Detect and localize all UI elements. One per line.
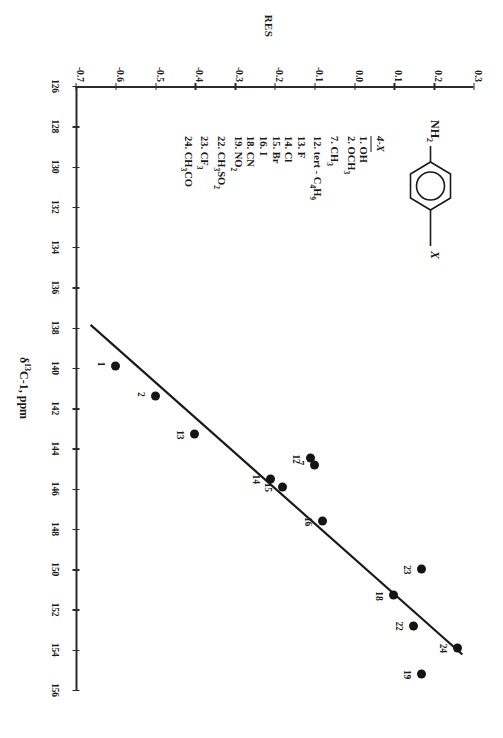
data-point-label: 2 [135,392,145,397]
legend-list: 1. OH2. OCH37. CH312. tert - C4H913. F14… [176,136,368,200]
legend-item-subscript: 3 [195,166,204,170]
legend-item-name: Br [270,152,281,164]
data-point-label: 7 [294,461,304,466]
legend-item-name: CH [328,147,339,163]
y-tick-label: 0.3 [472,56,482,82]
legend-item-name: CF [198,152,209,166]
legend-item-number: 7. [328,136,339,147]
benzene-structure-icon [397,120,463,270]
legend-item-subscript2: 9 [308,196,317,200]
x-axis-title-rest: C-1, ppm [16,371,30,419]
data-point [389,591,398,600]
legend-item-number: 1. [357,136,368,147]
legend-item-name: OH [357,147,368,163]
legend-item-subscript2: 2 [212,185,221,189]
data-point [417,669,426,678]
x-tick [72,690,79,691]
legend-item: 24. CH3CO [176,136,193,200]
nh2-subscript: 2 [425,138,434,142]
data-point [409,621,418,630]
legend-item-number: 15. [270,136,281,152]
data-point-label: 23 [401,565,411,574]
legend-item-number: 22. [215,136,226,152]
substituent-x-label: X [426,251,441,259]
data-point [277,482,286,491]
legend-item: 18. CN [243,136,256,200]
x-tick-label: 134 [49,240,59,254]
data-point-label: 19 [401,670,411,679]
legend-item-number: 2. [345,136,356,147]
legend-item-name: CH [215,152,226,168]
legend-item-name: CN [244,152,255,167]
y-tick-label: -0.7 [74,56,84,82]
data-point [190,430,199,439]
x-tick-label: 142 [49,401,59,415]
y-tick-label: -0.6 [114,56,124,82]
legend-item-number: 24. [182,136,193,152]
legend-item-name2: SO [215,171,226,185]
y-tick-label: 0.0 [353,56,363,82]
legend: 4-X 1. OH2. OCH37. CH312. tert - C4H913.… [176,136,385,200]
legend-item-number: 16. [257,136,268,152]
x-tick-label: 146 [49,482,59,496]
y-tick-label: -0.5 [154,56,164,82]
y-tick-label: -0.4 [193,56,203,82]
data-point [309,460,318,469]
data-point-label: 13 [174,430,184,439]
x-tick-label: 130 [49,160,59,174]
legend-item: 1. OH [356,136,369,200]
legend-item-subscript: 3 [325,162,334,166]
data-point-label: 18 [373,591,383,600]
legend-item-name2: CO [182,171,193,187]
data-point [150,392,159,401]
x-tick-label: 152 [49,603,59,617]
x-tick-label: 136 [49,281,59,295]
legend-item: 22. CH3SO2 [209,136,226,200]
x-tick-label: 148 [49,522,59,536]
legend-item: 23. CF3 [193,136,210,200]
x-tick-label: 132 [49,200,59,214]
data-point-label: 1 [95,362,105,367]
legend-item-name: tert - C [311,152,322,185]
legend-item-number: 12. [311,136,322,152]
legend-item-number: 19. [232,136,243,152]
legend-item-number: 18. [244,136,255,152]
data-point [453,643,462,652]
data-point [317,516,326,525]
x-tick-label: 144 [49,442,59,456]
y-tick-label: -0.3 [233,56,243,82]
nh2-text: NH [427,120,441,138]
legend-item-subscript: 3 [342,170,351,174]
legend-item-name: OCH [345,147,356,171]
legend-item-name: CH [182,152,193,168]
data-point-label: 24 [437,644,447,653]
legend-item-name: F [295,152,306,158]
x-tick-label: 154 [49,643,59,657]
legend-item: 2. OCH3 [339,136,356,200]
legend-item: 19. NO2 [226,136,243,200]
legend-item-subscript: 2 [229,168,238,172]
data-point [110,361,119,370]
x-tick-label: 156 [49,683,59,697]
y-tick-label: -0.2 [273,56,283,82]
y-tick-label: 0.2 [432,56,442,82]
y-axis-title: RES [262,0,274,56]
legend-item-name: I [257,152,268,156]
legend-item: 15. Br [268,136,281,200]
x-axis-title-superscript: 13 [22,363,31,371]
inset-panel: NH2 X 4-X 1. OH2. OCH37. CH312. tert - C… [233,120,463,370]
y-tick-label: 0.1 [392,56,402,82]
x-tick-label: 126 [49,79,59,93]
y-tick-label: -0.1 [313,56,323,82]
legend-item: 12. tert - C4H9 [306,136,323,200]
legend-item-name: Cl [282,152,293,163]
x-tick-label: 150 [49,562,59,576]
legend-item: 13. F [293,136,306,200]
legend-item-number: 23. [198,136,209,152]
legend-item: 14. Cl [281,136,294,200]
substituent-nh2-label: NH2 [425,120,441,142]
legend-item: 7. CH3 [322,136,339,200]
data-point-label: 14 [250,475,260,484]
data-point-label: 16 [302,517,312,526]
x-tick-label: 128 [49,119,59,133]
